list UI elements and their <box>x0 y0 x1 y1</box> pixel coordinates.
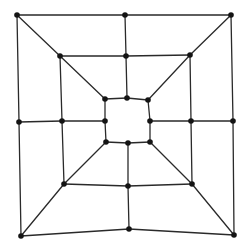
node-o-mr <box>230 118 236 124</box>
edge-i-tl-i-tm <box>105 98 127 99</box>
edge-o-tr-o-mr <box>231 15 233 121</box>
node-o-bl <box>18 233 24 239</box>
node-m-br <box>189 181 195 187</box>
edge-m-br-i-br <box>150 142 192 184</box>
node-o-ml <box>16 119 22 125</box>
edge-m-br-m-bm <box>128 184 192 186</box>
edge-o-tr-m-tr <box>190 15 231 55</box>
edge-o-tm-m-tm <box>125 15 126 56</box>
edge-m-tr-m-mr <box>190 55 191 121</box>
node-i-tm <box>124 95 130 101</box>
node-m-tr <box>187 52 193 58</box>
edge-m-tl-i-tl <box>60 56 105 99</box>
edge-o-bl-m-bl <box>21 184 64 236</box>
edge-m-bm-m-bl <box>64 184 128 186</box>
edge-m-tm-i-tm <box>126 56 127 98</box>
edge-o-br-o-bm <box>129 229 234 235</box>
edge-i-tr-i-mr <box>148 100 150 121</box>
node-i-bl <box>103 139 109 145</box>
node-o-tl <box>14 12 20 18</box>
edge-m-tr-i-tr <box>148 55 190 100</box>
node-m-tm <box>123 53 129 59</box>
node-i-bm <box>125 140 131 146</box>
node-m-ml <box>59 118 65 124</box>
edge-m-bl-m-ml <box>62 121 64 184</box>
edge-i-tm-i-tr <box>127 98 148 100</box>
edge-o-mr-o-br <box>233 121 234 235</box>
node-m-tl <box>57 53 63 59</box>
node-i-ml <box>102 118 108 124</box>
edge-i-br-i-bm <box>128 142 150 143</box>
node-o-bm <box>126 226 132 232</box>
node-i-tl <box>102 96 108 102</box>
node-o-br <box>231 232 237 238</box>
node-o-tr <box>228 12 234 18</box>
edge-m-mr-m-br <box>191 121 192 184</box>
node-i-mr <box>147 118 153 124</box>
edge-m-bl-i-bl <box>64 142 106 184</box>
edge-o-bl-o-ml <box>19 122 21 236</box>
node-o-tm <box>122 12 128 18</box>
edge-o-bm-m-bm <box>128 186 129 229</box>
edge-o-tl-m-tl <box>17 15 60 56</box>
edge-o-bm-o-bl <box>21 229 129 236</box>
edge-i-bm-i-bl <box>106 142 128 143</box>
node-m-bl <box>61 181 67 187</box>
edge-m-tm-m-tr <box>126 55 190 56</box>
node-i-br <box>147 139 153 145</box>
node-m-mr <box>188 118 194 124</box>
edge-o-ml-o-tl <box>17 15 19 122</box>
edge-o-br-m-br <box>192 184 234 235</box>
edges-layer <box>17 15 234 236</box>
node-i-tr <box>145 97 151 103</box>
edge-i-bl-i-ml <box>105 121 106 142</box>
edge-m-ml-m-tl <box>60 56 62 121</box>
edge-o-ml-m-ml <box>19 121 62 122</box>
graph-diagram <box>0 0 248 241</box>
node-m-bm <box>125 183 131 189</box>
